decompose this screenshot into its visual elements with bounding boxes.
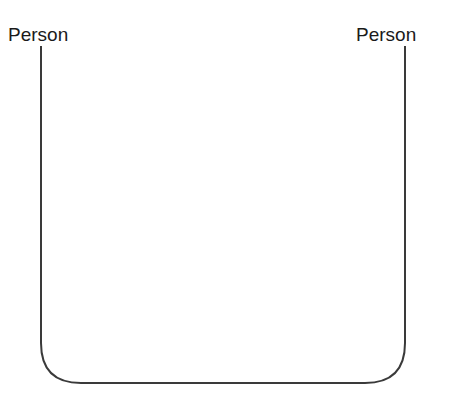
u-connector <box>0 0 453 397</box>
